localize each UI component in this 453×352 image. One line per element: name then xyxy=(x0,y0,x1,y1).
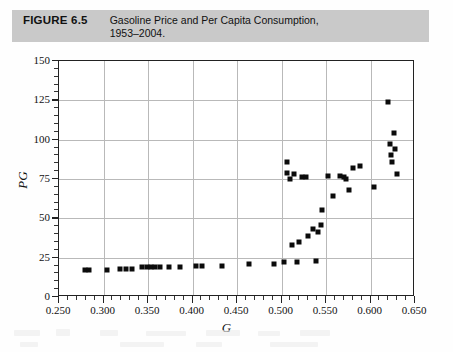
data-point xyxy=(347,188,352,193)
data-point xyxy=(194,263,199,268)
gridline-vertical xyxy=(193,61,194,295)
data-point xyxy=(158,265,163,270)
y-tick-label: 150 xyxy=(0,54,50,66)
bleed-artifact xyxy=(146,331,186,336)
data-point xyxy=(219,263,224,268)
x-tick-minor xyxy=(174,296,175,300)
x-tick-label: 0.250 xyxy=(35,304,81,316)
data-point xyxy=(139,265,144,270)
x-tick xyxy=(192,296,193,303)
caption: FIGURE 6.5 Gasoline Price and Per Capita… xyxy=(12,10,429,42)
data-point xyxy=(325,173,330,178)
y-tick-label: 75 xyxy=(0,172,50,184)
x-tick-minor xyxy=(254,296,255,300)
x-tick xyxy=(325,296,326,303)
gridline-vertical xyxy=(148,61,149,295)
x-tick-label: 0.400 xyxy=(169,304,215,316)
x-tick xyxy=(236,296,237,303)
data-point xyxy=(350,165,355,170)
x-tick xyxy=(370,296,371,303)
x-tick-minor xyxy=(378,296,379,300)
bleed-artifact xyxy=(100,330,118,336)
x-tick-minor xyxy=(183,296,184,300)
data-point xyxy=(388,153,393,158)
y-tick-label: 125 xyxy=(0,93,50,105)
x-tick xyxy=(147,296,148,303)
scatter-chart: PG G 0255075100125150 0.2500.3000.3500.4… xyxy=(0,42,453,352)
y-tick-label: 50 xyxy=(0,211,50,223)
bleed-artifact xyxy=(270,342,318,347)
x-tick-minor xyxy=(405,296,406,300)
data-point xyxy=(284,159,289,164)
gridline-vertical xyxy=(104,61,105,295)
x-tick xyxy=(414,296,415,303)
x-tick-minor xyxy=(361,296,362,300)
gridline-vertical xyxy=(237,61,238,295)
data-point xyxy=(314,258,319,263)
data-point xyxy=(87,268,92,273)
data-point xyxy=(303,175,308,180)
data-point xyxy=(291,172,296,177)
data-point xyxy=(272,261,277,266)
x-tick-minor xyxy=(165,296,166,300)
data-point xyxy=(395,172,400,177)
x-tick-minor xyxy=(343,296,344,300)
x-tick-minor xyxy=(111,296,112,300)
x-tick-minor xyxy=(76,296,77,300)
data-point xyxy=(331,194,336,199)
figure-page: FIGURE 6.5 Gasoline Price and Per Capita… xyxy=(0,0,453,352)
x-tick-minor xyxy=(129,296,130,300)
x-tick-label: 0.300 xyxy=(80,304,126,316)
data-point xyxy=(357,164,362,169)
data-point xyxy=(153,265,158,270)
data-point xyxy=(123,266,128,271)
x-tick-minor xyxy=(227,296,228,300)
gridline-horizontal xyxy=(59,218,413,219)
x-tick-minor xyxy=(200,296,201,300)
x-tick-minor xyxy=(272,296,273,300)
x-tick-minor xyxy=(263,296,264,300)
bleed-artifact xyxy=(258,331,280,336)
data-point xyxy=(105,268,110,273)
x-tick-label: 0.500 xyxy=(258,304,304,316)
gridline-horizontal xyxy=(59,179,413,180)
y-tick-label: 0 xyxy=(0,290,50,302)
data-point xyxy=(167,265,172,270)
data-point xyxy=(290,243,295,248)
x-tick xyxy=(281,296,282,303)
x-tick-minor xyxy=(316,296,317,300)
bleed-artifact xyxy=(206,330,240,336)
x-tick-minor xyxy=(334,296,335,300)
data-point xyxy=(284,170,289,175)
data-point xyxy=(318,222,323,227)
data-point xyxy=(178,265,183,270)
x-tick-minor xyxy=(156,296,157,300)
figure-number: FIGURE 6.5 xyxy=(23,14,88,26)
x-tick-minor xyxy=(352,296,353,300)
data-point xyxy=(294,260,299,265)
y-tick-label: 100 xyxy=(0,133,50,145)
gridline-vertical xyxy=(371,61,372,295)
x-tick-label: 0.550 xyxy=(302,304,348,316)
figure-title-line2: 1953–2004. xyxy=(110,27,165,39)
figure-title: Gasoline Price and Per Capita Consumptio… xyxy=(110,14,319,39)
x-tick-minor xyxy=(67,296,68,300)
data-point xyxy=(200,263,205,268)
x-tick xyxy=(58,296,59,303)
x-tick-label: 0.350 xyxy=(124,304,170,316)
x-tick-minor xyxy=(307,296,308,300)
gridline-horizontal xyxy=(59,258,413,259)
data-point xyxy=(386,99,391,104)
data-point xyxy=(118,266,123,271)
x-tick xyxy=(103,296,104,303)
y-tick-label: 25 xyxy=(0,251,50,263)
x-tick-label: 0.650 xyxy=(391,304,437,316)
data-point xyxy=(391,131,396,136)
plot-area xyxy=(58,60,414,296)
bleed-artifact xyxy=(196,342,222,347)
x-tick-minor xyxy=(209,296,210,300)
x-tick-minor xyxy=(387,296,388,300)
data-point xyxy=(310,227,315,232)
data-point xyxy=(246,261,251,266)
x-tick-minor xyxy=(396,296,397,300)
